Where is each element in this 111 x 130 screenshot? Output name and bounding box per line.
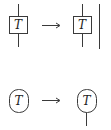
- row1-right-box-node: T: [74, 4, 100, 49]
- node-label: T: [78, 18, 87, 32]
- row2-right-oval-node: T: [78, 90, 97, 127]
- diagram-canvas: T T T T: [0, 0, 111, 130]
- row1-arrow-icon: [42, 23, 60, 28]
- node-label: T: [15, 94, 24, 108]
- node-label: T: [14, 18, 23, 32]
- node-label: T: [83, 94, 92, 108]
- row2-left-oval-node: T: [10, 90, 29, 113]
- row1-left-box-node: T: [10, 4, 28, 47]
- row2-arrow-icon: [42, 98, 60, 103]
